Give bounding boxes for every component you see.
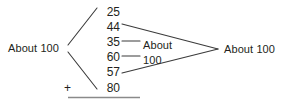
label-middle-line-2: 100: [143, 53, 172, 68]
addend-value: 25: [94, 6, 120, 18]
addend-value: 80: [94, 82, 120, 94]
connector-left-to-80: [68, 52, 97, 89]
label-left-group-estimate: About 100: [8, 42, 59, 54]
addend-value: 60: [94, 51, 120, 63]
plus-operator-symbol: +: [64, 82, 71, 94]
label-right-group-estimate: About 100: [224, 43, 275, 55]
addend-value: 44: [94, 21, 120, 33]
estimation-grouping-diagram: About 100 About100 About 100 + 25 44 35 …: [0, 0, 292, 106]
connector-left-to-25: [68, 8, 97, 45]
addend-value: 57: [94, 66, 120, 78]
label-middle-line-1: About: [143, 38, 172, 53]
addend-value: 35: [94, 36, 120, 48]
label-middle-group-estimate: About100: [143, 38, 172, 68]
